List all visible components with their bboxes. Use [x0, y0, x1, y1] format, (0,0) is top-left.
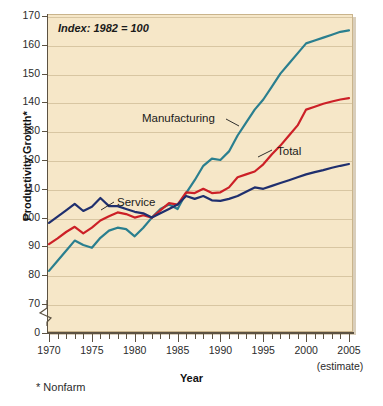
series-label-manufacturing: Manufacturing: [142, 112, 215, 124]
series-label-total: Total: [277, 145, 301, 157]
series-label-service: Service: [117, 196, 155, 208]
leader-line: [258, 150, 272, 157]
leader-line: [101, 202, 114, 210]
leader-line: [226, 119, 239, 126]
label-leader-lines: [0, 0, 383, 406]
productivity-growth-chart: Productivity Growth* 1701601501401301201…: [0, 0, 383, 406]
